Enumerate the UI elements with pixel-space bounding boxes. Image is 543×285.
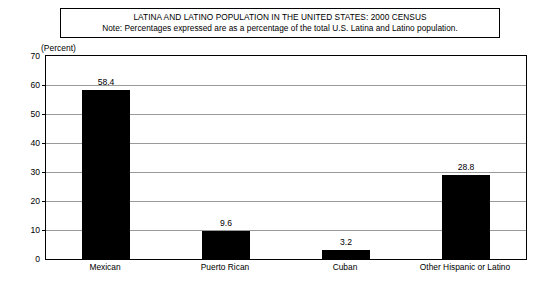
y-axis-tick-mark: [42, 201, 46, 202]
chart-title-box: LATINA AND LATINO POPULATION IN THE UNIT…: [60, 8, 500, 38]
x-axis-category-label: Cuban: [285, 262, 405, 272]
y-axis-tick-mark: [42, 230, 46, 231]
bar-value-label: 58.4: [76, 78, 136, 87]
y-axis-tick-label: 20: [14, 197, 40, 206]
chart-title: LATINA AND LATINO POPULATION IN THE UNIT…: [133, 12, 426, 23]
y-axis-tick-label: 10: [14, 226, 40, 235]
y-axis-tick-label: 0: [14, 255, 40, 264]
bar: [442, 175, 490, 259]
y-axis-tick-mark: [42, 143, 46, 144]
x-axis-category-label: Other Hispanic or Latino: [405, 262, 525, 272]
y-axis-tick-label: 70: [14, 52, 40, 61]
y-axis-tick-label: 50: [14, 110, 40, 119]
bar: [322, 250, 370, 259]
chart-note: Note: Percentages expressed are as a per…: [102, 23, 458, 34]
x-axis-category-label: Mexican: [45, 262, 165, 272]
y-axis-tick-label: 60: [14, 81, 40, 90]
y-axis-tick-mark: [42, 114, 46, 115]
plot-inner: 01020304050607058.49.63.228.8: [46, 56, 526, 259]
bar-value-label: 28.8: [436, 163, 496, 172]
bar: [202, 231, 250, 259]
y-axis-tick-label: 40: [14, 139, 40, 148]
plot-area: 01020304050607058.49.63.228.8: [45, 55, 527, 260]
y-axis-tick-label: 30: [14, 168, 40, 177]
bar: [82, 90, 130, 259]
y-axis-tick-mark: [42, 85, 46, 86]
x-axis-category-label: Puerto Rican: [165, 262, 285, 272]
chart-figure: LATINA AND LATINO POPULATION IN THE UNIT…: [0, 0, 543, 285]
y-axis-unit-label: (Percent): [41, 43, 76, 54]
bar-value-label: 3.2: [316, 238, 376, 247]
y-axis-tick-mark: [42, 172, 46, 173]
bar-value-label: 9.6: [196, 219, 256, 228]
